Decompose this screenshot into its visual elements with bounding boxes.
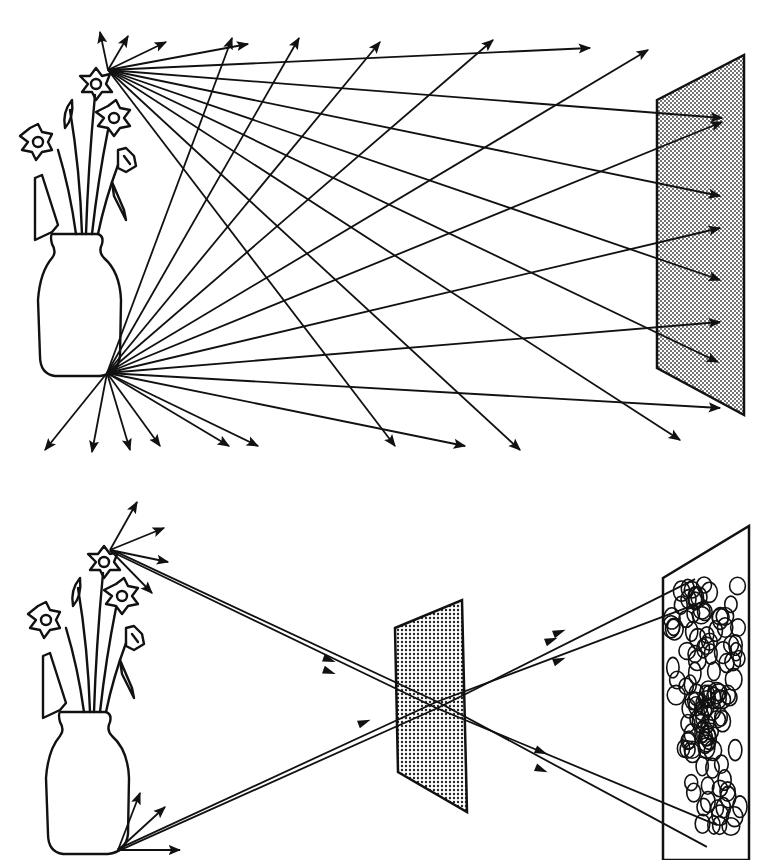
light-ray-arrow [107, 38, 232, 373]
light-ray-arrow [92, 373, 107, 452]
light-ray-arrow [107, 322, 720, 373]
daffodil-icon [96, 100, 130, 136]
arrowhead-icon [534, 746, 549, 758]
pinhole-camera-diagram [0, 0, 771, 860]
arrowhead-icon [322, 666, 337, 678]
daffodil-icon [28, 602, 60, 638]
light-ray-arrow [110, 502, 137, 550]
daffodil-icon [126, 626, 144, 650]
flower-vase-bottom [28, 546, 144, 854]
light-ray-arrow [100, 32, 108, 70]
light-ray-arrow [107, 42, 380, 373]
top-panel [20, 32, 744, 452]
daffodil-icon [20, 124, 52, 160]
vase-icon [38, 234, 121, 376]
bottom-panel [28, 502, 749, 860]
arrowhead-icon [552, 626, 567, 638]
scattered-light-rays [45, 32, 722, 452]
diagram-canvas [0, 0, 771, 860]
light-ray-arrow [107, 373, 160, 446]
projection-screen [657, 55, 744, 415]
arrowhead-icon [357, 716, 372, 728]
light-ray-arrow [107, 373, 720, 408]
daffodil-icon [118, 148, 136, 172]
arrowhead-icon [534, 764, 549, 776]
light-ray-arrow [107, 373, 258, 446]
light-ray-arrow [107, 122, 722, 373]
light-ray-arrow [108, 70, 720, 196]
light-ray-arrow [45, 373, 107, 450]
light-ray-arrow [108, 48, 590, 70]
vase-icon [46, 712, 129, 854]
light-ray-arrow [110, 528, 164, 550]
daffodil-icon [104, 578, 138, 614]
light-ray-arrow [108, 70, 395, 446]
flower-vase-top [20, 68, 136, 376]
light-ray-arrow [108, 70, 722, 118]
